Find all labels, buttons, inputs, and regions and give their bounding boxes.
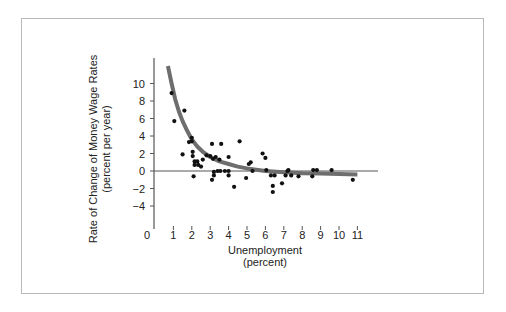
x-tick-label: 1 <box>170 229 176 241</box>
data-point <box>172 119 176 123</box>
y-axis-subtitle: (percent per year) <box>100 105 112 192</box>
data-point <box>238 139 242 143</box>
data-point <box>250 169 254 173</box>
data-points <box>170 91 355 194</box>
data-point <box>223 169 227 173</box>
y-axis: −4−20246810 <box>132 58 378 229</box>
data-point <box>263 156 267 160</box>
data-point <box>182 109 186 113</box>
y-tick-label: 8 <box>139 95 145 107</box>
data-point <box>214 155 218 159</box>
x-axis-title: Unemployment <box>228 244 302 256</box>
data-point <box>193 163 197 167</box>
x-tick-label: 9 <box>318 229 324 241</box>
data-point <box>269 173 273 177</box>
data-point <box>330 168 334 172</box>
data-point <box>181 152 185 156</box>
data-point <box>218 169 222 173</box>
data-point <box>204 153 208 157</box>
data-point <box>210 142 214 146</box>
data-point <box>244 176 248 180</box>
x-tick-label: 10 <box>333 229 345 241</box>
y-tick-label: 6 <box>139 113 145 125</box>
y-tick-label: 4 <box>139 130 145 142</box>
data-point <box>261 151 265 155</box>
x-tick-label: 0 <box>144 229 150 241</box>
x-tick-label: 2 <box>189 229 195 241</box>
data-point <box>190 139 194 143</box>
data-point <box>271 190 275 194</box>
x-tick-label: 3 <box>207 229 213 241</box>
data-point <box>227 173 231 177</box>
x-tick-label: 4 <box>226 229 232 241</box>
data-point <box>310 174 314 178</box>
data-point <box>249 160 253 164</box>
data-point <box>284 173 288 177</box>
data-point <box>286 168 290 172</box>
data-point <box>212 173 216 177</box>
data-point <box>195 159 199 163</box>
data-point <box>289 173 293 177</box>
x-tick-label: 5 <box>244 229 250 241</box>
y-tick-label: 0 <box>139 165 145 177</box>
y-tick-label: −2 <box>132 183 145 195</box>
phillips-curve-chart: −4−20246810 01234567891011 Rate of Chang… <box>0 0 506 312</box>
x-tick-label: 7 <box>281 229 287 241</box>
data-point <box>315 168 319 172</box>
phillips-curve-line <box>168 66 358 175</box>
data-point <box>271 184 275 188</box>
data-point <box>264 168 268 172</box>
data-point <box>201 158 205 162</box>
x-tick-label: 6 <box>262 229 268 241</box>
data-point <box>199 165 203 169</box>
data-point <box>217 158 221 162</box>
x-axis: 01234567891011 <box>144 226 363 241</box>
data-point <box>351 178 355 182</box>
data-point <box>311 168 315 172</box>
data-point <box>210 178 214 182</box>
data-point <box>192 174 196 178</box>
data-point <box>280 181 284 185</box>
x-axis-subtitle: (percent) <box>243 256 287 268</box>
data-point <box>227 155 231 159</box>
y-axis-title: Rate of Change of Money Wage Rates <box>87 54 99 243</box>
data-point <box>232 185 236 189</box>
data-point <box>273 173 277 177</box>
x-tick-label: 11 <box>352 229 363 241</box>
y-tick-label: −4 <box>132 200 145 212</box>
data-point <box>170 91 174 95</box>
data-point <box>227 169 231 173</box>
y-tick-label: 10 <box>133 78 145 90</box>
data-point <box>219 142 223 146</box>
data-point <box>191 150 195 154</box>
x-tick-label: 8 <box>299 229 305 241</box>
data-point <box>191 154 195 158</box>
y-tick-label: 2 <box>139 148 145 160</box>
fitted-curve <box>168 66 358 175</box>
data-point <box>296 174 300 178</box>
